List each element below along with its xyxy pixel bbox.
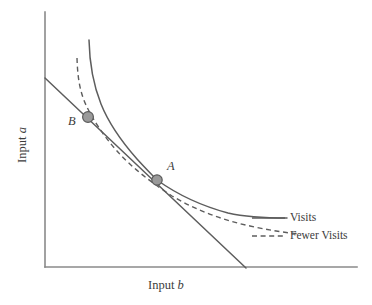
legend-label-visits: Visits [290, 212, 316, 224]
point-label-a: A [167, 160, 175, 173]
point-label-b: B [68, 115, 76, 128]
y-axis-label-variable: a [15, 127, 29, 133]
plot-area [0, 0, 372, 305]
x-axis-label-variable: b [178, 278, 184, 292]
y-axis-label: Input a [16, 127, 29, 163]
point-marker-b [83, 112, 94, 123]
y-axis-label-text: Input [15, 136, 29, 162]
point-marker-a [152, 175, 162, 185]
isoquant-isocost-figure: Input b Input a A B Visits Fewer Visits [0, 0, 372, 305]
fewer-visits-isoquant-curve [77, 58, 300, 234]
isocost-line [45, 78, 246, 268]
x-axis-label-text: Input [148, 278, 174, 292]
visits-isoquant-curve [89, 40, 287, 218]
legend-label-fewer-visits: Fewer Visits [290, 230, 348, 242]
x-axis-label: Input b [148, 279, 184, 292]
